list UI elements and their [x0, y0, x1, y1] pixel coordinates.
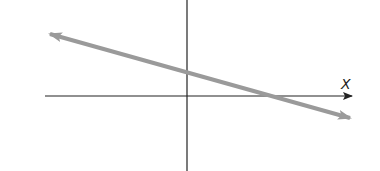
coordinate-plane: X — [0, 0, 380, 171]
plotted-line — [50, 34, 350, 118]
x-axis-label: X — [340, 76, 351, 92]
